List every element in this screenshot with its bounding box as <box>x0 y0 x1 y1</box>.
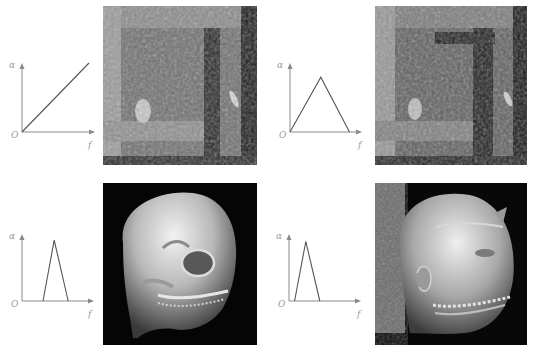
x-axis-label: f <box>87 309 93 319</box>
origin-label: O <box>278 299 286 309</box>
y-axis-arrow <box>287 234 292 240</box>
y-axis-label: α <box>277 60 283 70</box>
tf-curve <box>295 241 320 301</box>
volume-rendering-c <box>103 183 257 345</box>
x-axis-arrow <box>88 299 94 304</box>
y-axis-label: α <box>276 231 282 241</box>
transfer-function-graph-d: α O f <box>275 224 367 324</box>
x-axis-label: f <box>357 140 363 150</box>
y-axis-label: α <box>9 60 15 70</box>
y-axis-arrow <box>288 63 293 69</box>
wood-texture-image <box>375 6 527 165</box>
x-axis-label: f <box>356 309 362 319</box>
transfer-function-graph-c: α O f <box>8 224 100 324</box>
head-skin-image <box>375 183 527 345</box>
volume-rendering-a <box>103 6 257 165</box>
wood-texture-image <box>103 6 257 165</box>
y-axis-arrow <box>20 234 25 240</box>
x-axis-arrow <box>356 130 362 135</box>
x-axis-arrow <box>89 130 95 135</box>
tf-graph-svg-d: α O f <box>275 224 367 324</box>
tf-curve <box>43 240 68 301</box>
tf-curve <box>22 63 89 132</box>
origin-label: O <box>11 299 19 309</box>
x-axis-label: f <box>87 140 93 150</box>
x-axis-arrow <box>355 299 361 304</box>
tf-graph-svg-a: α O f <box>8 55 100 155</box>
transfer-function-graph-b: α O f <box>276 55 368 155</box>
tf-graph-svg-b: α O f <box>276 55 368 155</box>
origin-label: O <box>279 130 287 140</box>
y-axis-label: α <box>9 231 15 241</box>
tf-graph-svg-c: α O f <box>8 224 100 324</box>
y-axis-arrow <box>20 63 25 69</box>
skull-image <box>103 183 257 345</box>
origin-label: O <box>11 130 19 140</box>
transfer-function-graph-a: α O f <box>8 55 100 155</box>
volume-rendering-d <box>375 183 527 345</box>
volume-rendering-b <box>375 6 527 165</box>
tf-curve <box>290 77 350 132</box>
